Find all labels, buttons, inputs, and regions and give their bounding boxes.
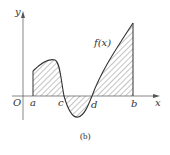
point-c-label: c [58,97,64,108]
y-axis-arrow-icon [21,11,25,18]
shaded-region-d-b [92,23,133,96]
shaded-region-a-c [33,60,64,96]
origin-label: O [13,97,21,108]
y-axis-label: y [14,6,21,17]
function-label: f(x) [93,37,111,48]
y-axis [21,11,25,120]
point-b-label: b [131,98,137,109]
point-a-label: a [30,97,36,108]
area-under-curve-diagram: y x O a c d b f(x) (b) [0,0,170,155]
figure-caption: (b) [80,131,91,141]
x-axis-label: x [155,97,161,108]
point-d-label: d [91,99,97,110]
